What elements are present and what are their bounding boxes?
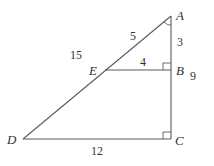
right-angle-mark-C bbox=[163, 132, 171, 139]
length-label-EB: 4 bbox=[140, 55, 146, 69]
length-label-AB: 3 bbox=[177, 35, 183, 49]
vertex-label-A: A bbox=[175, 8, 184, 23]
length-label-AE: 5 bbox=[130, 29, 136, 43]
vertex-label-D: D bbox=[6, 132, 17, 147]
vertex-label-E: E bbox=[88, 63, 97, 78]
length-label-DC: 12 bbox=[91, 144, 103, 158]
length-label-AD: 15 bbox=[70, 48, 82, 62]
vertex-label-B: B bbox=[176, 63, 184, 78]
angle-arc-A bbox=[164, 22, 171, 25]
similar-triangles-diagram: A B C D E 5 3 15 4 9 12 bbox=[0, 0, 214, 166]
vertex-label-C: C bbox=[175, 133, 184, 148]
segment-AD bbox=[23, 16, 171, 139]
right-angle-mark-B bbox=[163, 63, 171, 70]
length-label-AC: 9 bbox=[190, 69, 196, 83]
